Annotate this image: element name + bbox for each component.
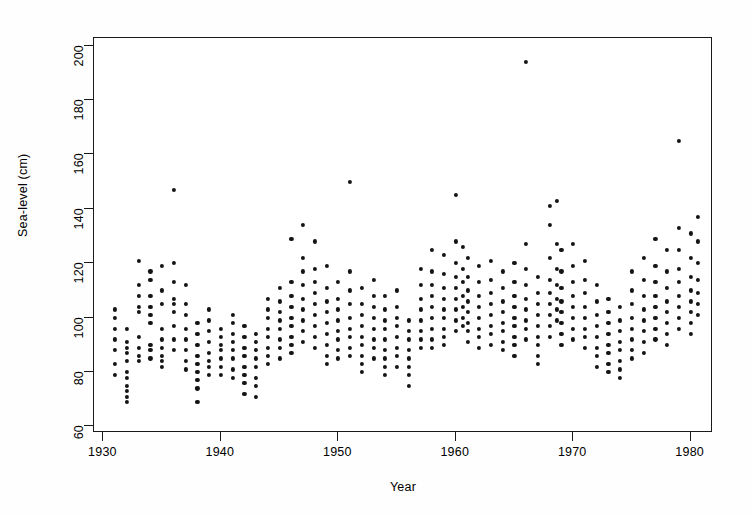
x-tick-label: 1940 (206, 445, 235, 459)
data-point (383, 294, 387, 298)
data-point (277, 345, 281, 349)
data-point (289, 316, 293, 320)
data-point (184, 302, 188, 306)
data-point (195, 362, 199, 366)
data-point (536, 362, 540, 366)
data-point (348, 269, 352, 273)
data-point (665, 343, 669, 347)
data-point (231, 321, 235, 325)
data-point (696, 302, 700, 306)
data-point (266, 335, 270, 339)
data-point (113, 337, 117, 341)
data-point (454, 286, 458, 290)
data-point (207, 359, 211, 363)
data-point (642, 329, 646, 333)
data-point (336, 307, 340, 311)
data-point (524, 297, 528, 301)
data-point (595, 365, 599, 369)
data-point (555, 307, 559, 311)
data-point (548, 277, 552, 281)
data-point (125, 326, 129, 330)
data-point (418, 329, 422, 333)
data-point (266, 307, 270, 311)
data-point (383, 318, 387, 322)
data-point (536, 343, 540, 347)
data-point (512, 305, 516, 309)
data-point (583, 345, 587, 349)
data-point (677, 226, 681, 230)
data-point (524, 307, 528, 311)
data-point (555, 297, 559, 301)
data-point (618, 318, 622, 322)
data-point (512, 261, 516, 265)
data-point (696, 215, 700, 219)
data-point (383, 348, 387, 352)
data-point (184, 367, 188, 371)
data-point (313, 302, 317, 306)
data-point (407, 384, 411, 388)
data-point (524, 242, 528, 246)
data-point (571, 305, 575, 309)
data-point (219, 335, 223, 339)
data-point (665, 310, 669, 314)
data-point (172, 261, 176, 265)
data-point (442, 316, 446, 320)
data-point (277, 299, 281, 303)
data-point (689, 288, 693, 292)
data-point (665, 269, 669, 273)
data-point (301, 297, 305, 301)
y-tick-label: 80 (72, 371, 86, 385)
data-point (689, 275, 693, 279)
data-point (219, 343, 223, 347)
data-point (642, 294, 646, 298)
y-tick-label: 180 (72, 99, 86, 120)
data-point (348, 326, 352, 330)
x-tick-mark (690, 432, 691, 441)
data-point (465, 310, 469, 314)
data-point (442, 297, 446, 301)
data-point (618, 359, 622, 363)
data-point (231, 348, 235, 352)
data-point (395, 316, 399, 320)
x-tick-mark (455, 432, 456, 441)
data-point (536, 275, 540, 279)
data-point (571, 337, 575, 341)
data-points-layer (94, 38, 711, 431)
data-point (254, 384, 258, 388)
data-point (430, 345, 434, 349)
data-point (242, 324, 246, 328)
data-point (559, 310, 563, 314)
data-point (148, 277, 152, 281)
data-point (266, 326, 270, 330)
data-point (125, 359, 129, 363)
data-point (160, 337, 164, 341)
data-point (454, 307, 458, 311)
data-point (266, 297, 270, 301)
data-point (536, 302, 540, 306)
data-point (324, 286, 328, 290)
data-point (242, 354, 246, 358)
data-point (677, 305, 681, 309)
data-point (418, 318, 422, 322)
data-point (548, 313, 552, 317)
data-point (360, 362, 364, 366)
data-point (395, 354, 399, 358)
data-point (555, 318, 559, 322)
data-point (618, 367, 622, 371)
data-point (489, 291, 493, 295)
data-point (395, 305, 399, 309)
data-point (324, 343, 328, 347)
data-point (571, 326, 575, 330)
data-point (407, 365, 411, 369)
data-point (501, 286, 505, 290)
data-point (172, 297, 176, 301)
data-point (301, 223, 305, 227)
data-point (501, 299, 505, 303)
data-point (313, 267, 317, 271)
data-point (583, 316, 587, 320)
data-point (125, 370, 129, 374)
data-point (454, 318, 458, 322)
data-point (336, 280, 340, 284)
data-point (348, 316, 352, 320)
data-point (430, 326, 434, 330)
